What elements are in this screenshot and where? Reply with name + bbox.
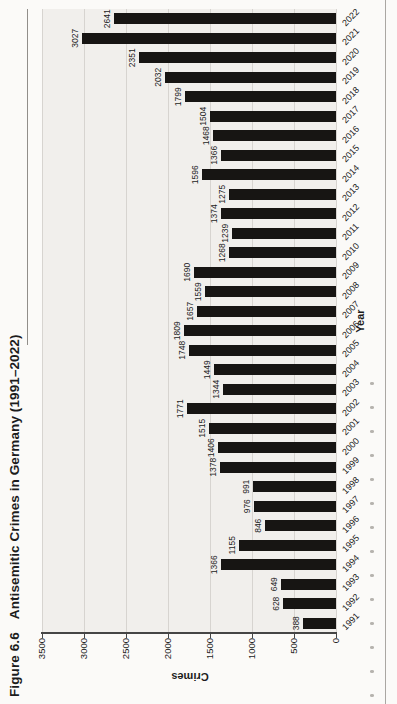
plot-area: 3886286491366115584697699113781406151517… xyxy=(42,9,336,633)
scan-speck xyxy=(370,478,374,481)
x-category-label: 2014 xyxy=(340,163,361,184)
figure-number-label: Figure 6.6 xyxy=(7,632,22,697)
x-category-label: 2021 xyxy=(340,26,361,47)
bar xyxy=(254,501,336,512)
bar-value-label: 3027 xyxy=(70,15,81,61)
scan-speck xyxy=(370,502,374,505)
y-tick-label: 3500 xyxy=(36,638,48,680)
gridline xyxy=(42,9,43,633)
bar xyxy=(265,520,336,531)
x-category-label: 2012 xyxy=(340,202,361,223)
scan-speck xyxy=(370,574,374,577)
bar-value-label: 1155 xyxy=(227,522,238,568)
gridline xyxy=(210,9,211,633)
bar xyxy=(82,33,336,44)
x-category-label: 2018 xyxy=(340,85,361,106)
bar xyxy=(281,579,336,590)
scan-speck xyxy=(370,598,374,601)
scan-speck xyxy=(370,646,374,649)
bar-value-label: 1690 xyxy=(182,249,193,295)
bar xyxy=(194,267,336,278)
x-category-label: 2019 xyxy=(340,65,361,86)
x-category-label: 1996 xyxy=(340,514,361,535)
bar xyxy=(221,559,336,570)
y-tick-label: 3000 xyxy=(78,638,90,680)
scan-speck xyxy=(370,550,374,553)
bar xyxy=(202,169,336,180)
x-category-label: 2017 xyxy=(340,104,361,125)
bar xyxy=(165,72,336,83)
figure-title-text: Antisemitic Crimes in Germany (1991–2022… xyxy=(7,334,22,619)
bar xyxy=(221,208,336,219)
y-tick-label: 500 xyxy=(288,638,300,680)
x-category-label: 2013 xyxy=(340,182,361,203)
page: { "figure": { "label": "Figure 6.6", "ti… xyxy=(0,0,397,704)
scan-speck xyxy=(370,382,374,385)
y-tick-label: 2500 xyxy=(120,638,132,680)
bar xyxy=(197,306,336,317)
x-category-label: 2020 xyxy=(340,46,361,67)
x-category-label: 2003 xyxy=(340,377,361,398)
y-tick-label: 1000 xyxy=(246,638,258,680)
figure-sheet: Figure 6.6Antisemitic Crimes in Germany … xyxy=(0,0,397,704)
x-category-label: 2001 xyxy=(340,416,361,437)
x-category-label: 1992 xyxy=(340,592,361,613)
x-category-label: 2002 xyxy=(340,397,361,418)
x-category-label: 2009 xyxy=(340,260,361,281)
figure-title: Figure 6.6Antisemitic Crimes in Germany … xyxy=(7,334,22,697)
x-category-label: 2015 xyxy=(340,143,361,164)
x-category-label: 1994 xyxy=(340,553,361,574)
bar xyxy=(187,403,336,414)
bar-value-label: 2641 xyxy=(102,0,113,42)
bar xyxy=(210,111,336,122)
x-category-label: 2000 xyxy=(340,436,361,457)
y-axis-line xyxy=(41,632,337,634)
gridline xyxy=(84,9,85,633)
bar xyxy=(253,481,336,492)
bar xyxy=(232,228,336,239)
bar xyxy=(220,462,336,473)
x-category-label: 2010 xyxy=(340,241,361,262)
x-category-label: 2004 xyxy=(340,358,361,379)
bar-value-label: 1771 xyxy=(175,386,186,432)
bar xyxy=(229,189,336,200)
bar xyxy=(303,618,336,629)
bar-value-label: 1809 xyxy=(172,308,183,354)
bar xyxy=(189,345,336,356)
bar xyxy=(209,423,336,434)
bar xyxy=(184,325,336,336)
x-category-label: 1998 xyxy=(340,475,361,496)
bar xyxy=(213,130,336,141)
bar-value-label: 1366 xyxy=(209,542,220,588)
scan-speck xyxy=(370,430,374,433)
y-tick-label: 0 xyxy=(330,638,342,680)
gridline xyxy=(126,9,127,633)
figure-bottom-rule xyxy=(385,0,386,704)
bar xyxy=(221,150,336,161)
x-category-label: 1991 xyxy=(340,611,361,632)
x-category-label: 1993 xyxy=(340,572,361,593)
x-category-label: 2022 xyxy=(340,7,361,28)
x-category-label: 1995 xyxy=(340,533,361,554)
bar xyxy=(283,598,336,609)
scan-speck xyxy=(370,694,374,697)
x-category-label: 2016 xyxy=(340,124,361,145)
scan-speck xyxy=(370,454,374,457)
bar xyxy=(223,384,336,395)
bar xyxy=(139,52,336,63)
scan-speck xyxy=(370,622,374,625)
scan-speck xyxy=(370,670,374,673)
title-rule xyxy=(27,9,28,345)
bar xyxy=(185,91,336,102)
bar xyxy=(114,13,336,24)
y-axis-title: Crimes xyxy=(171,671,208,683)
bar xyxy=(229,247,336,258)
gridline xyxy=(168,9,169,633)
scan-speck xyxy=(370,406,374,409)
bar-value-label: 1596 xyxy=(190,152,201,198)
x-category-label: 1997 xyxy=(340,494,361,515)
x-category-label: 1999 xyxy=(340,455,361,476)
bar xyxy=(205,286,336,297)
x-category-label: 2011 xyxy=(340,222,361,243)
scan-speck xyxy=(370,526,374,529)
